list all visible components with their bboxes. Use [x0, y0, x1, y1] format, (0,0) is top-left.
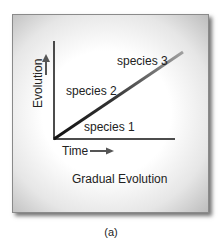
species-1-label: species 1: [84, 120, 135, 134]
figure-caption: (a): [0, 226, 222, 238]
x-arrow-icon: [90, 148, 114, 155]
x-axis-label: Time: [62, 144, 88, 158]
species-3-label: species 3: [117, 54, 168, 68]
y-axis-label: Evolution: [31, 59, 45, 108]
species-2-label: species 2: [66, 84, 117, 98]
figure-title: Gradual Evolution: [72, 172, 167, 186]
